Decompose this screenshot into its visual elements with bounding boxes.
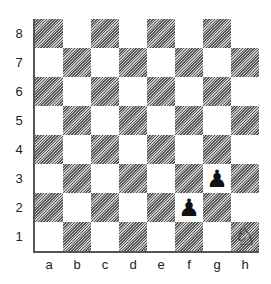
square-b2[interactable] (63, 193, 91, 222)
square-b7[interactable] (63, 48, 91, 77)
square-a8[interactable] (35, 19, 63, 48)
rank-label: 1 (12, 229, 26, 244)
square-a2[interactable] (35, 193, 63, 222)
square-h7[interactable] (231, 48, 259, 77)
rank-label: 6 (12, 84, 26, 99)
square-d8[interactable] (119, 19, 147, 48)
square-f5[interactable] (175, 106, 203, 135)
white-knight-icon[interactable]: ♘ (231, 222, 259, 251)
square-e3[interactable] (147, 164, 175, 193)
file-label: d (119, 257, 147, 272)
black-pawn-icon[interactable]: ♟ (175, 193, 203, 222)
square-d5[interactable] (119, 106, 147, 135)
square-g1[interactable] (203, 222, 231, 251)
square-c2[interactable] (91, 193, 119, 222)
rank-label: 3 (12, 171, 26, 186)
square-b4[interactable] (63, 135, 91, 164)
square-b3[interactable] (63, 164, 91, 193)
square-h1[interactable]: ♘ (231, 222, 259, 251)
file-label: f (175, 257, 203, 272)
square-a5[interactable] (35, 106, 63, 135)
square-f3[interactable] (175, 164, 203, 193)
rank-label: 7 (12, 55, 26, 70)
square-f6[interactable] (175, 77, 203, 106)
square-e6[interactable] (147, 77, 175, 106)
square-c5[interactable] (91, 106, 119, 135)
square-c8[interactable] (91, 19, 119, 48)
square-e4[interactable] (147, 135, 175, 164)
square-d2[interactable] (119, 193, 147, 222)
square-a1[interactable] (35, 222, 63, 251)
square-h6[interactable] (231, 77, 259, 106)
square-e2[interactable] (147, 193, 175, 222)
square-b5[interactable] (63, 106, 91, 135)
square-f4[interactable] (175, 135, 203, 164)
square-f1[interactable] (175, 222, 203, 251)
chessboard: ♟♟♘ (33, 19, 259, 253)
square-g6[interactable] (203, 77, 231, 106)
square-d3[interactable] (119, 164, 147, 193)
square-h3[interactable] (231, 164, 259, 193)
square-e7[interactable] (147, 48, 175, 77)
square-h8[interactable] (231, 19, 259, 48)
square-c6[interactable] (91, 77, 119, 106)
square-g3[interactable]: ♟ (203, 164, 231, 193)
square-d6[interactable] (119, 77, 147, 106)
square-d1[interactable] (119, 222, 147, 251)
square-g7[interactable] (203, 48, 231, 77)
square-c1[interactable] (91, 222, 119, 251)
square-a4[interactable] (35, 135, 63, 164)
square-f8[interactable] (175, 19, 203, 48)
rank-label: 4 (12, 142, 26, 157)
square-e8[interactable] (147, 19, 175, 48)
file-label: e (147, 257, 175, 272)
square-a7[interactable] (35, 48, 63, 77)
square-g5[interactable] (203, 106, 231, 135)
rank-label: 2 (12, 200, 26, 215)
square-h5[interactable] (231, 106, 259, 135)
square-d7[interactable] (119, 48, 147, 77)
square-h2[interactable] (231, 193, 259, 222)
file-label: g (203, 257, 231, 272)
file-label: h (231, 257, 259, 272)
square-d4[interactable] (119, 135, 147, 164)
rank-label: 5 (12, 113, 26, 128)
square-f2[interactable]: ♟ (175, 193, 203, 222)
square-g2[interactable] (203, 193, 231, 222)
square-e5[interactable] (147, 106, 175, 135)
square-g8[interactable] (203, 19, 231, 48)
square-a6[interactable] (35, 77, 63, 106)
square-b6[interactable] (63, 77, 91, 106)
black-pawn-icon[interactable]: ♟ (203, 164, 231, 193)
square-c3[interactable] (91, 164, 119, 193)
square-a3[interactable] (35, 164, 63, 193)
square-b1[interactable] (63, 222, 91, 251)
file-label: b (63, 257, 91, 272)
square-f7[interactable] (175, 48, 203, 77)
file-label: c (91, 257, 119, 272)
square-h4[interactable] (231, 135, 259, 164)
square-g4[interactable] (203, 135, 231, 164)
rank-label: 8 (12, 26, 26, 41)
file-label: a (35, 257, 63, 272)
square-b8[interactable] (63, 19, 91, 48)
square-c7[interactable] (91, 48, 119, 77)
square-c4[interactable] (91, 135, 119, 164)
square-e1[interactable] (147, 222, 175, 251)
